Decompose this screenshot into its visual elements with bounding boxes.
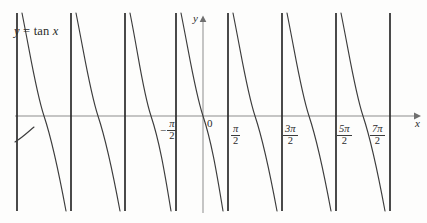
x-axis-label: x xyxy=(415,118,420,129)
fraction-denominator: 2 xyxy=(337,136,352,147)
tick-label-7pi-over-2: 7π 2 xyxy=(370,119,385,146)
tangent-branch xyxy=(22,13,66,211)
plot-canvas xyxy=(0,0,427,223)
equation-label: y = tan x xyxy=(14,25,59,38)
tick-label-3pi-over-2: 3π 2 xyxy=(283,119,298,146)
minus-sign: − xyxy=(160,125,166,136)
tangent-branch xyxy=(287,13,331,211)
tangent-branch xyxy=(130,13,171,211)
fraction-numerator: π xyxy=(167,119,176,131)
fraction-denominator: 2 xyxy=(283,136,298,147)
fraction-numerator: 5π xyxy=(337,124,352,136)
equation-lhs: y xyxy=(14,24,20,38)
tick-label-5pi-over-2: 5π 2 xyxy=(337,119,352,146)
origin-label: 0 xyxy=(207,118,213,129)
fraction-denominator: 2 xyxy=(167,131,176,142)
tangent-branch xyxy=(181,13,223,211)
y-axis-label: y xyxy=(193,13,198,24)
tangent-branch xyxy=(76,13,120,211)
tick-label-neg-pi-over-2: − π 2 xyxy=(160,119,176,141)
fraction-denominator: 2 xyxy=(370,136,385,147)
equation-variable: x xyxy=(53,24,59,38)
fraction-numerator: 3π xyxy=(283,124,298,136)
fraction-numerator: 7π xyxy=(370,124,385,136)
fraction-denominator: 2 xyxy=(231,136,240,147)
tangent-branch xyxy=(341,13,385,211)
fraction-numerator: π xyxy=(231,124,240,136)
tangent-branch xyxy=(233,13,277,211)
x-axis xyxy=(15,113,421,120)
y-axis-arrowhead xyxy=(200,16,207,23)
tick-label-pi-over-2: π 2 xyxy=(231,119,240,146)
equation-function-name: tan xyxy=(34,24,50,38)
tangent-function-figure: y = tan x y x 0 − π 2 π 2 3π 2 xyxy=(0,0,427,223)
equation-equals: = xyxy=(23,24,30,38)
